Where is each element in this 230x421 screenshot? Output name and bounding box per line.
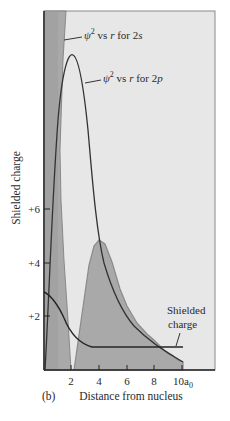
panel-label: (b) bbox=[42, 390, 56, 403]
x-tick-label-2: 2 bbox=[68, 375, 74, 387]
y-tick-label-2: +2 bbox=[28, 310, 40, 322]
x-axis-title: Distance from nucleus bbox=[79, 390, 183, 402]
y-tick-label-4: +4 bbox=[28, 257, 40, 269]
x-tick-label-4: 4 bbox=[96, 375, 102, 387]
chart: 2 4 6 8 10a0 +2 +4 +6 Shielded charge Di… bbox=[0, 0, 230, 421]
x-tick-label-8: 8 bbox=[151, 375, 157, 387]
annotation-shielded-line2: charge bbox=[168, 318, 197, 330]
annotation-shielded-line1: Shielded bbox=[167, 304, 206, 316]
x-tick-label-6: 6 bbox=[124, 375, 130, 387]
y-tick-label-6: +6 bbox=[28, 203, 40, 215]
y-axis-title: Shielded charge bbox=[10, 151, 23, 225]
x-tick-label-10: 10a0 bbox=[173, 375, 193, 390]
